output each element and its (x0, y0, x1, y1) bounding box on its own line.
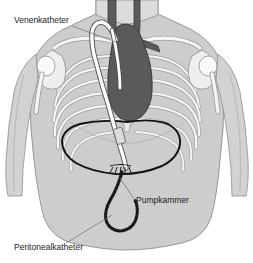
label-pumpkammer: Pumpkammer (136, 195, 189, 205)
medical-illustration: Venenkatheter Pumpkammer Peritonealkathe… (0, 0, 253, 263)
label-venenkatheter: Venenkatheter (14, 15, 69, 25)
label-peritonealkatheter: Peritonealkatheter (14, 242, 83, 252)
